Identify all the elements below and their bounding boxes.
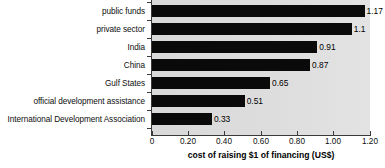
x-axis-tick-label-060: 0.60 <box>253 137 269 146</box>
y-axis-tick <box>147 74 151 75</box>
x-axis-tick-label-020: 0.20 <box>180 137 196 146</box>
x-axis-line <box>151 135 371 136</box>
y-axis-tick <box>147 56 151 57</box>
x-axis-tick <box>152 131 153 135</box>
y-axis-tick <box>147 128 151 129</box>
category-label-india: India <box>127 41 145 54</box>
category-label-private-sector: private sector <box>97 23 145 36</box>
bar-chart: public funds private sector India China … <box>0 0 385 168</box>
y-axis-line <box>151 0 152 136</box>
category-label-china: China <box>124 59 145 72</box>
x-axis-tick-label-100: 1.00 <box>325 137 341 146</box>
y-axis-tick <box>147 2 151 3</box>
x-axis-tick <box>333 131 334 135</box>
x-axis-tick-label-080: 0.80 <box>289 137 305 146</box>
bar-public-funds <box>152 5 365 17</box>
category-axis: public funds private sector India China … <box>0 0 149 135</box>
plot-area <box>152 0 370 135</box>
x-axis-tick-label-040: 0.40 <box>216 137 232 146</box>
value-label-official-development-assistance: 0.51 <box>247 95 263 107</box>
category-label-public-funds: public funds <box>102 5 145 18</box>
bar-private-sector <box>152 23 352 35</box>
value-label-china: 0.87 <box>312 59 328 71</box>
y-axis-tick <box>147 38 151 39</box>
x-axis-tick <box>224 131 225 135</box>
bar-international-development-association <box>152 113 212 125</box>
bar-official-development-assistance <box>152 95 245 107</box>
bar-india <box>152 41 317 53</box>
x-axis-tick <box>370 131 371 135</box>
value-label-india: 0.91 <box>319 41 335 53</box>
bar-gulf-states <box>152 77 270 89</box>
bar-china <box>152 59 310 71</box>
x-axis-tick <box>188 131 189 135</box>
x-axis-tick <box>297 131 298 135</box>
y-axis-tick <box>147 92 151 93</box>
value-label-international-development-association: 0.33 <box>214 113 230 125</box>
value-label-private-sector: 1.1 <box>354 23 366 35</box>
category-label-official-development-assistance: official development assistance <box>33 95 145 108</box>
value-label-gulf-states: 0.65 <box>272 77 288 89</box>
category-label-gulf-states: Gulf States <box>105 77 145 90</box>
value-label-public-funds: 1.17 <box>367 5 383 17</box>
x-axis-title: cost of raising $1 of financing (US$) <box>152 150 370 160</box>
x-axis-tick-label-120: 1.20 <box>362 137 378 146</box>
y-axis-tick <box>147 20 151 21</box>
y-axis-tick <box>147 110 151 111</box>
x-axis-tick-label-0: 0 <box>150 137 155 146</box>
x-axis-tick <box>261 131 262 135</box>
category-label-international-development-association: International Development Association <box>8 113 145 126</box>
